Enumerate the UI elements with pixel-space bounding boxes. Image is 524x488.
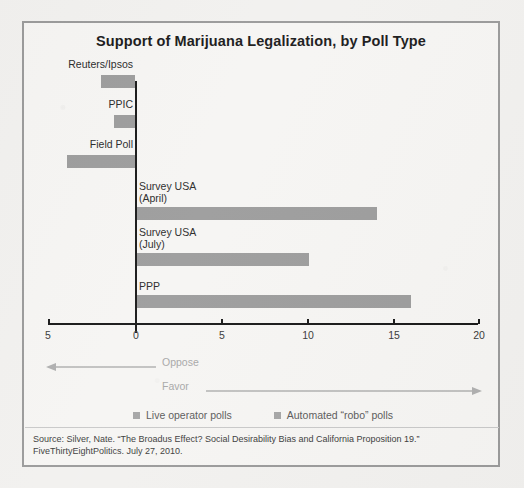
bar-row: Survey USA (July) — [24, 227, 502, 279]
bar-row: Reuters/Ipsos — [24, 59, 502, 101]
bar-row: PPIC — [24, 99, 502, 141]
direction-annotations: Oppose Favor — [24, 356, 502, 404]
oppose-label: Oppose — [162, 356, 199, 368]
x-axis-tick — [221, 319, 223, 324]
legend-swatch-icon — [133, 412, 140, 419]
x-axis-tick — [307, 319, 309, 324]
bar-label-reuters-ipsos: Reuters/Ipsos — [68, 59, 133, 71]
chart-title: Support of Marijuana Legalization, by Po… — [24, 33, 498, 49]
legend-label: Automated “robo” polls — [287, 409, 393, 421]
bar-survey-usa-april — [137, 207, 377, 220]
figure-frame: Support of Marijuana Legalization, by Po… — [22, 21, 500, 467]
source-note: Source: Silver, Nate. “The Broadus Effec… — [33, 433, 495, 457]
bar-label-ppic: PPIC — [108, 99, 133, 111]
oppose-arrow — [46, 358, 156, 368]
legend-label: Live operator polls — [146, 409, 232, 421]
x-axis-tick — [48, 319, 50, 324]
source-line-2: FiveThirtyEightPolitics. July 27, 2010. — [33, 445, 495, 457]
x-axis-tick — [478, 319, 480, 324]
x-axis-tick — [393, 319, 395, 324]
bar-label-survey-usa-july: Survey USA (July) — [139, 227, 196, 250]
x-axis-tick-label: 20 — [473, 329, 485, 341]
bar-label-ppp: PPP — [139, 281, 160, 293]
bar-field-poll — [67, 155, 135, 168]
bar-ppp — [137, 295, 411, 308]
bar-row: PPP — [24, 281, 502, 327]
x-axis-tick-label: 0 — [133, 329, 139, 341]
favor-arrow — [206, 382, 482, 392]
legend-entry-live-operator: Live operator polls — [133, 409, 232, 421]
plot-area: Reuters/Ipsos PPIC Field Poll Survey USA… — [24, 59, 502, 339]
x-axis-tick-label: 10 — [302, 329, 314, 341]
bar-label-survey-usa-april: Survey USA (April) — [139, 181, 196, 204]
x-axis-line — [48, 323, 478, 325]
bar-survey-usa-july — [137, 253, 309, 266]
x-axis-tick-label: 5 — [45, 329, 51, 341]
bar-reuters-ipsos — [101, 75, 135, 88]
bar-row: Field Poll — [24, 139, 502, 181]
source-divider — [25, 427, 499, 428]
chart-legend: Live operator polls Automated “robo” pol… — [24, 406, 502, 424]
legend-entry-automated-robo: Automated “robo” polls — [274, 409, 393, 421]
x-axis: 5 0 5 10 15 20 — [24, 323, 502, 353]
x-axis-tick — [135, 319, 137, 324]
x-axis-tick-label: 5 — [219, 329, 225, 341]
x-axis-tick-label: 15 — [388, 329, 400, 341]
bar-ppic — [114, 115, 135, 128]
bar-row: Survey USA (April) — [24, 181, 502, 233]
legend-swatch-icon — [274, 412, 281, 419]
favor-label: Favor — [162, 380, 189, 392]
source-line-1: Source: Silver, Nate. “The Broadus Effec… — [33, 433, 495, 445]
bar-label-field-poll: Field Poll — [90, 139, 133, 151]
